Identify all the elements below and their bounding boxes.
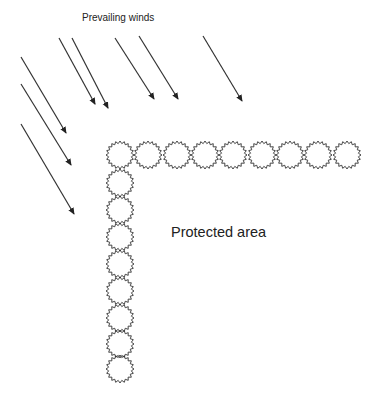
tree-icon (106, 304, 134, 332)
tree-icon (333, 141, 361, 169)
wind-arrow-icon (139, 36, 178, 99)
diagram-canvas: Prevailing winds Protected area (0, 0, 384, 409)
tree-icon (163, 141, 191, 169)
tree-icon (106, 169, 134, 197)
wind-arrow-icon (21, 84, 71, 165)
tree-icon (106, 196, 134, 224)
tree-icon (106, 355, 134, 383)
windbreak-trees (106, 141, 361, 383)
tree-icon (134, 141, 162, 169)
tree-icon (248, 141, 276, 169)
tree-icon (106, 277, 134, 305)
wind-arrows (21, 36, 242, 214)
tree-icon (276, 141, 304, 169)
tree-icon (106, 223, 134, 251)
tree-icon (106, 141, 134, 169)
wind-arrow-icon (115, 38, 154, 99)
tree-icon (106, 250, 134, 278)
tree-icon (304, 141, 332, 169)
wind-arrow-icon (72, 38, 108, 108)
tree-icon (106, 330, 134, 358)
wind-arrow-icon (21, 124, 74, 214)
tree-icon (191, 141, 219, 169)
prevailing-winds-label: Prevailing winds (82, 12, 154, 23)
wind-arrow-icon (203, 36, 242, 101)
protected-area-label: Protected area (171, 224, 266, 240)
diagram-svg (0, 0, 384, 409)
tree-icon (219, 141, 247, 169)
